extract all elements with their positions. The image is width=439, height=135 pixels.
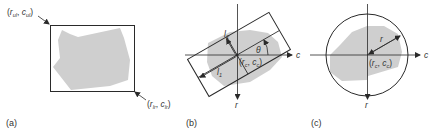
- upper-left-arrow: [38, 16, 49, 24]
- upper-left-label: (rul, cul): [7, 7, 33, 18]
- r-axis-label: r: [365, 100, 369, 110]
- lower-right-arrow: [135, 92, 146, 100]
- region-shape: [330, 26, 402, 81]
- caption-a: (a): [6, 118, 17, 128]
- r-axis-label: r: [235, 100, 239, 110]
- caption-c: (c): [311, 118, 322, 128]
- caption-b: (b): [186, 118, 197, 128]
- bounding-shapes-diagram: (rul, cul) (rlr, clr) (a) c r θ l2 l1 (r…: [0, 0, 439, 135]
- panel-a: (rul, cul) (rlr, clr) (a): [6, 7, 171, 128]
- lower-right-label: (rlr, clr): [147, 99, 171, 110]
- c-axis-label: c: [424, 50, 429, 60]
- c-axis-label: c: [296, 50, 301, 60]
- center-label: (rc, cc): [369, 58, 392, 69]
- region-shape: [53, 28, 130, 90]
- panel-c: c c r r (rc, cc) (c): [310, 4, 429, 128]
- l2-label: l2: [224, 29, 229, 40]
- panel-b: c r θ l2 l1 (rc, cc) (b): [185, 4, 301, 128]
- center-label: (rc, cc): [239, 57, 262, 68]
- theta-label: θ: [256, 45, 261, 55]
